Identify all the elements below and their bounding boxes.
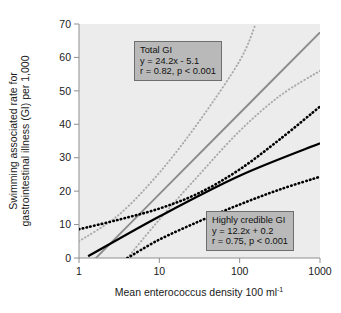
x-axis-ticks: 1101001000 bbox=[76, 258, 332, 277]
annotation-total-gi-equation: y = 24.2x - 5.1 bbox=[140, 56, 216, 67]
annotation-total-gi-stats: r = 0.82, p < 0.001 bbox=[140, 66, 216, 77]
annotation-highly-credible-gi-stats: r = 0.75, p < 0.001 bbox=[212, 236, 288, 247]
y-tick-label: 0 bbox=[65, 252, 71, 264]
y-axis-title-line1: Swimming associated rate for bbox=[7, 72, 19, 210]
y-tick-label: 10 bbox=[59, 218, 71, 230]
chart-figure: 010203040506070 1101001000 Swimming asso… bbox=[0, 0, 341, 313]
y-axis-ticks: 010203040506070 bbox=[59, 18, 79, 264]
y-tick-label: 20 bbox=[59, 185, 71, 197]
x-axis-title: Mean enterococcus density 100 ml-1 bbox=[115, 286, 284, 298]
y-tick-label: 40 bbox=[59, 118, 71, 130]
x-tick-label: 10 bbox=[153, 265, 165, 277]
y-tick-label: 60 bbox=[59, 51, 71, 63]
annotation-total-gi-title: Total GI bbox=[140, 45, 216, 56]
annotation-total-gi: Total GI y = 24.2x - 5.1 r = 0.82, p < 0… bbox=[134, 41, 222, 81]
y-tick-label: 50 bbox=[59, 85, 71, 97]
y-tick-label: 70 bbox=[59, 18, 71, 30]
annotation-highly-credible-gi-title: Highly credible GI bbox=[212, 215, 288, 226]
annotation-highly-credible-gi: Highly credible GI y = 12.2x + 0.2 r = 0… bbox=[206, 211, 294, 251]
y-axis-title: Swimming associated rate for gastrointes… bbox=[7, 55, 31, 226]
y-axis-title-line2: gastrointestinal illness (GI) per 1,000 bbox=[19, 55, 31, 226]
x-axis-title-base: Mean enterococcus density 100 ml bbox=[115, 286, 277, 298]
x-tick-label: 100 bbox=[231, 265, 249, 277]
annotation-highly-credible-gi-equation: y = 12.2x + 0.2 bbox=[212, 226, 288, 237]
x-tick-label: 1000 bbox=[308, 265, 332, 277]
x-tick-label: 1 bbox=[76, 265, 82, 277]
y-tick-label: 30 bbox=[59, 151, 71, 163]
x-axis-title-superscript: -1 bbox=[277, 286, 283, 293]
